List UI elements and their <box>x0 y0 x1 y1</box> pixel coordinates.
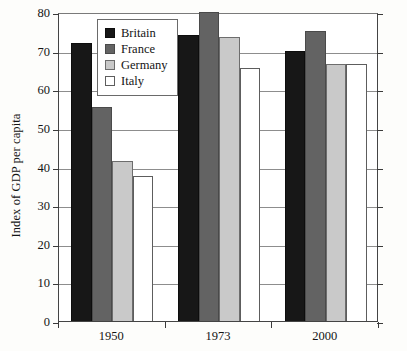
legend-item-italy: Italy <box>105 73 168 89</box>
x-axis-tick <box>271 322 272 328</box>
y-axis-tick-label: 70 <box>4 44 50 59</box>
y-axis-tick-right <box>377 91 383 92</box>
x-axis-label-1973: 1973 <box>173 329 263 344</box>
x-axis-label-2000: 2000 <box>280 329 370 344</box>
y-axis-tick-right <box>377 130 383 131</box>
y-axis-tick-right <box>377 53 383 54</box>
x-axis-tick <box>165 322 166 328</box>
bar-britain-1950 <box>71 43 92 321</box>
bar-germany-1973 <box>219 37 240 321</box>
y-axis-tick-label: 80 <box>4 6 50 21</box>
bar-germany-1950 <box>112 161 133 321</box>
y-axis-tick-right <box>377 284 383 285</box>
legend-item-france: France <box>105 41 168 57</box>
y-axis-tick-right <box>377 246 383 247</box>
legend-item-britain: Britain <box>105 25 168 41</box>
bar-britain-1973 <box>178 35 199 321</box>
bar-britain-2000 <box>285 51 306 321</box>
legend-label: France <box>121 42 155 57</box>
bar-group-2000 <box>285 14 367 321</box>
legend-label: Germany <box>121 58 168 73</box>
legend-label: Britain <box>121 26 156 41</box>
legend-label: Italy <box>121 74 144 89</box>
y-axis-tick-label: 0 <box>4 315 50 330</box>
y-axis-tick-label: 20 <box>4 237 50 252</box>
x-axis-tick <box>58 322 59 328</box>
bar-italy-1950 <box>133 176 154 321</box>
bar-france-1973 <box>199 12 220 321</box>
y-axis-tick-right <box>377 207 383 208</box>
bar-italy-1973 <box>240 68 261 321</box>
legend-swatch-britain-icon <box>105 28 115 38</box>
y-axis-tick-right <box>377 14 383 15</box>
bar-germany-2000 <box>326 64 347 321</box>
legend-swatch-italy-icon <box>105 76 115 86</box>
x-axis-label-1950: 1950 <box>66 329 156 344</box>
y-axis-title: Index of GDP per capita <box>9 66 24 286</box>
bar-chart: Index of GDP per capita 0102030405060708… <box>0 0 407 351</box>
legend-swatch-germany-icon <box>105 60 115 70</box>
legend-item-germany: Germany <box>105 57 168 73</box>
y-axis-tick-label: 40 <box>4 160 50 175</box>
bar-group-1973 <box>178 14 260 321</box>
y-axis-tick-label: 50 <box>4 121 50 136</box>
legend-swatch-france-icon <box>105 44 115 54</box>
bar-france-1950 <box>92 107 113 321</box>
y-axis-tick-label: 10 <box>4 276 50 291</box>
y-axis-tick-label: 30 <box>4 199 50 214</box>
x-axis-tick <box>378 322 379 328</box>
bar-italy-2000 <box>346 64 367 321</box>
y-axis-tick-label: 60 <box>4 83 50 98</box>
chart-legend: BritainFranceGermanyItaly <box>97 19 178 96</box>
bar-france-2000 <box>305 31 326 321</box>
y-axis-tick-right <box>377 169 383 170</box>
